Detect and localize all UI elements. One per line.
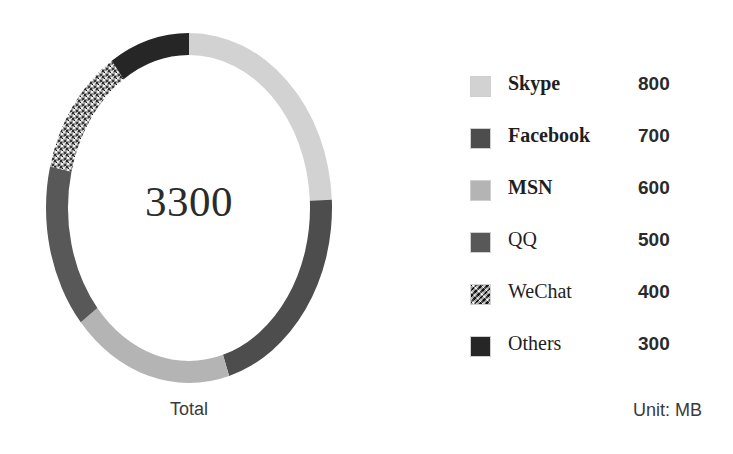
legend-label-msn: MSN: [508, 176, 552, 199]
legend-label-facebook: Facebook: [508, 124, 590, 147]
donut-center-total: 3300: [36, 177, 342, 226]
legend-label-skype: Skype: [508, 72, 560, 95]
legend-swatch-facebook: [470, 128, 491, 149]
donut-slice-wechat[interactable]: [50, 61, 124, 172]
legend-row[interactable]: Skype800: [470, 68, 710, 120]
legend-row[interactable]: WeChat400: [470, 276, 710, 328]
legend-value-skype: 800: [638, 73, 690, 95]
chart-legend: Skype800Facebook700MSN600QQ500WeChat400O…: [470, 68, 710, 380]
donut-slice-others[interactable]: [112, 33, 189, 79]
donut-chart: 3300: [36, 22, 342, 394]
legend-row[interactable]: Others300: [470, 328, 710, 380]
legend-swatch-msn: [470, 180, 491, 201]
legend-value-qq: 500: [638, 229, 690, 251]
legend-swatch-others: [470, 336, 491, 357]
donut-slice-msn[interactable]: [81, 308, 229, 383]
legend-swatch-wechat: [470, 284, 491, 305]
legend-label-wechat: WeChat: [508, 280, 572, 303]
chart-page: 3300 Total Skype800Facebook700MSN600QQ50…: [0, 0, 733, 454]
legend-row[interactable]: Facebook700: [470, 120, 710, 172]
legend-value-facebook: 700: [638, 125, 690, 147]
unit-note: Unit: MB: [470, 400, 710, 421]
donut-caption-total: Total: [36, 399, 342, 420]
legend-swatch-qq: [470, 232, 491, 253]
legend-row[interactable]: MSN600: [470, 172, 710, 224]
legend-swatch-skype: [470, 76, 491, 97]
legend-value-wechat: 400: [638, 281, 690, 303]
donut-slice-skype[interactable]: [189, 33, 332, 201]
legend-value-msn: 600: [638, 177, 690, 199]
legend-label-others: Others: [508, 332, 561, 355]
legend-row[interactable]: QQ500: [470, 224, 710, 276]
legend-label-qq: QQ: [508, 228, 537, 251]
donut-slice-facebook[interactable]: [223, 200, 332, 376]
legend-value-others: 300: [638, 333, 690, 355]
